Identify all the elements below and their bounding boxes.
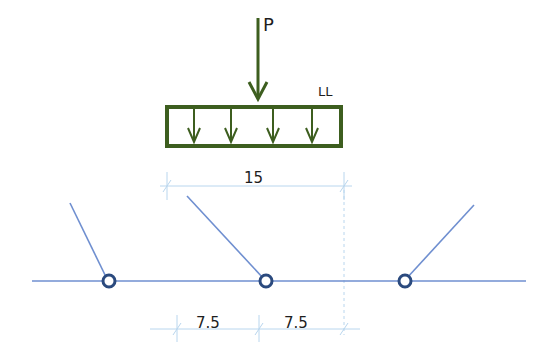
dimension-15-label: 15 — [244, 169, 263, 187]
middle-strut — [187, 196, 264, 279]
right-strut — [406, 205, 474, 279]
structural-load-diagram: P LL 15 — [0, 0, 552, 355]
live-load-label: LL — [318, 84, 333, 99]
middle-pin-icon — [260, 275, 272, 287]
point-load: P — [249, 14, 274, 99]
right-pin-icon — [399, 275, 411, 287]
span-dimension-left-label: 7.5 — [196, 314, 220, 332]
distributed-load-arrows — [188, 108, 318, 142]
span-dimension-right-label: 7.5 — [284, 314, 308, 332]
point-load-label: P — [263, 14, 274, 35]
left-strut — [70, 203, 107, 279]
left-pin-icon — [103, 275, 115, 287]
dimension-15 — [160, 172, 352, 335]
dimension-spans — [150, 315, 360, 342]
members — [32, 196, 526, 281]
